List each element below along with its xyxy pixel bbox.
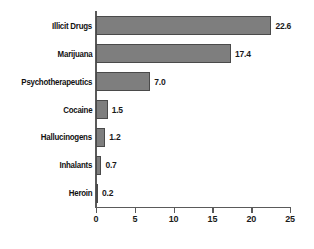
bar <box>96 44 231 63</box>
tick-label: 0 <box>94 214 99 224</box>
tick-label: 15 <box>208 214 218 224</box>
tick-mark <box>96 208 97 213</box>
category-label: Heroin <box>68 188 92 198</box>
tick-label: 25 <box>285 214 295 224</box>
tick-mark <box>212 208 213 213</box>
category-label: Inhalants <box>59 160 92 170</box>
bar <box>96 156 101 175</box>
bar-value-label: 7.0 <box>154 77 165 87</box>
category-axis-labels: Illicit DrugsMarijuanaPsychotherapeutics… <box>0 0 92 249</box>
bar <box>96 184 98 203</box>
category-label: Illicit Drugs <box>52 21 92 31</box>
tick-mark <box>174 208 175 213</box>
bar-value-label: 17.4 <box>235 49 251 59</box>
category-label: Marijuana <box>57 49 92 59</box>
bar-value-label: 1.2 <box>109 132 120 142</box>
tick-mark <box>251 208 252 213</box>
bar-value-label: 22.6 <box>275 21 291 31</box>
tick-mark <box>135 208 136 213</box>
category-label: Cocaine <box>63 105 92 115</box>
bar <box>96 128 105 147</box>
category-label: Hallucinogens <box>41 132 92 142</box>
tick-mark <box>290 208 291 213</box>
bar-value-label: 0.2 <box>102 188 113 198</box>
bar-value-label: 1.5 <box>112 105 123 115</box>
tick-label: 5 <box>132 214 137 224</box>
bar-value-label: 0.7 <box>105 160 116 170</box>
tick-label: 20 <box>246 214 256 224</box>
category-label: Psychotherapeutics <box>21 77 92 87</box>
tick-label: 10 <box>169 214 179 224</box>
bar <box>96 72 150 91</box>
bar <box>96 16 271 35</box>
bar <box>96 100 108 119</box>
plot-area: 22.617.47.01.51.20.70.2 <box>96 12 290 207</box>
bar-chart: Illicit DrugsMarijuanaPsychotherapeutics… <box>0 0 314 249</box>
